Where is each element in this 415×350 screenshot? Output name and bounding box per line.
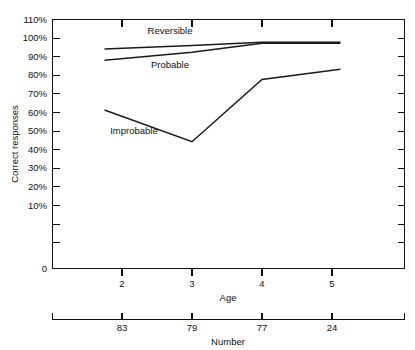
line-chart-canvas: 110% 100% 90% 80% 70% 60% 50% 40% 30% 20… xyxy=(0,0,415,350)
series-label-reversible: Reversible xyxy=(148,25,193,36)
y-tick-label-80: 80% xyxy=(28,69,48,80)
series-label-probable: Probable xyxy=(151,59,189,70)
y-axis-tick-labels: 110% 100% 90% 80% 70% 60% 50% 40% 30% 20… xyxy=(23,14,48,274)
series-labels-group: Reversible Probable Improbable xyxy=(110,25,192,136)
y-tick-label-90: 90% xyxy=(28,51,48,62)
y-tick-label-40: 40% xyxy=(28,144,48,155)
series-label-improbable: Improbable xyxy=(110,125,158,136)
number-tick-label-79: 79 xyxy=(187,322,198,333)
x-axis-ticks xyxy=(122,269,332,276)
y-tick-label-10: 10% xyxy=(28,200,48,211)
y-tick-label-70: 70% xyxy=(28,88,48,99)
x-axis-tick-labels: 2 3 4 5 xyxy=(119,278,334,289)
y-tick-label-0: 0 xyxy=(42,263,47,274)
x-tick-label-3: 3 xyxy=(189,278,194,289)
x-tick-label-2: 2 xyxy=(119,278,124,289)
plot-frame xyxy=(53,20,405,269)
number-tick-label-83: 83 xyxy=(117,322,128,333)
x-axis-title: Age xyxy=(220,292,237,303)
y-tick-label-60: 60% xyxy=(28,107,48,118)
number-tick-label-77: 77 xyxy=(257,322,268,333)
x-tick-label-4: 4 xyxy=(259,278,264,289)
y-axis-ticks-right xyxy=(398,38,405,243)
series-line-probable xyxy=(105,43,341,60)
y-axis-title-text: Correct responses xyxy=(9,105,20,183)
number-axis: 83 79 77 24 Number xyxy=(53,313,405,348)
y-tick-label-110: 110% xyxy=(23,14,47,25)
y-tick-label-50: 50% xyxy=(28,125,48,136)
number-tick-label-24: 24 xyxy=(327,322,338,333)
number-axis-title: Number xyxy=(211,336,245,347)
y-tick-label-20: 20% xyxy=(28,181,48,192)
y-tick-label-100: 100% xyxy=(23,32,48,43)
y-axis-ticks-left xyxy=(53,38,60,243)
y-tick-label-30: 30% xyxy=(28,162,48,173)
x-tick-label-5: 5 xyxy=(329,278,334,289)
y-axis-title: Correct responses xyxy=(9,105,20,183)
chart-figure: 110% 100% 90% 80% 70% 60% 50% 40% 30% 20… xyxy=(0,0,415,350)
